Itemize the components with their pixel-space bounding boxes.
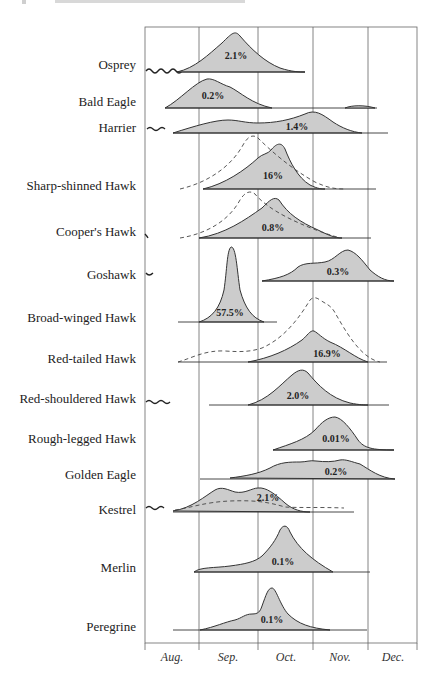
series-sharp-shinned-hawk <box>180 136 376 189</box>
species-label: Broad-winged Hawk <box>27 310 136 325</box>
month-label-dec: Dec. <box>381 650 404 664</box>
series-harrier <box>147 112 388 133</box>
wavy-early-marker-icon <box>146 507 164 510</box>
species-label: Harrier <box>98 120 136 135</box>
percent-label: 0.1% <box>272 556 295 567</box>
month-label-aug: Aug. <box>160 650 183 664</box>
percent-label: 2.1% <box>225 50 248 61</box>
percent-label: 0.2% <box>202 90 225 101</box>
species-label: Red-shouldered Hawk <box>19 391 136 406</box>
percent-label: 16% <box>263 170 283 181</box>
wavy-early-marker-icon <box>147 128 165 131</box>
series-red-shouldered-hawk <box>146 370 389 405</box>
series-kestrel <box>146 488 354 512</box>
migration-chart: Osprey Bald Eagle Harrier Sharp-shinned … <box>0 0 440 677</box>
wavy-early-marker-icon <box>145 234 148 238</box>
month-label-oct: Oct. <box>276 650 296 664</box>
percent-label: 2.0% <box>287 390 310 401</box>
percent-label: 0.3% <box>327 266 350 277</box>
series-golden-eagle <box>200 460 395 479</box>
series-bald-eagle <box>165 79 377 108</box>
percent-label: 0.1% <box>261 614 284 625</box>
species-label: Sharp-shinned Hawk <box>27 178 137 193</box>
percent-label: 0.01% <box>322 433 350 444</box>
month-label-nov: Nov. <box>328 650 350 664</box>
species-label: Osprey <box>98 57 136 72</box>
species-label: Merlin <box>101 560 137 575</box>
series-red-tailed-hawk <box>178 298 387 362</box>
month-label-sep: Sep. <box>218 650 238 664</box>
wavy-early-marker-icon <box>146 401 170 404</box>
percent-label: 1.4% <box>286 121 309 132</box>
species-label: Goshawk <box>87 267 137 282</box>
species-label: Golden Eagle <box>65 467 136 482</box>
percent-label: 0.8% <box>262 222 285 233</box>
series-goshawk <box>146 250 394 281</box>
species-label: Red-tailed Hawk <box>48 351 137 366</box>
species-label: Cooper's Hawk <box>56 224 136 239</box>
percent-label: 2.1% <box>257 492 280 503</box>
species-label: Rough-legged Hawk <box>28 431 136 446</box>
percent-label: 57.5% <box>216 307 244 318</box>
percent-label: 0.2% <box>325 466 348 477</box>
wavy-early-marker-icon <box>146 273 153 275</box>
species-label: Kestrel <box>98 502 136 517</box>
species-label: Bald Eagle <box>79 94 137 109</box>
species-label: Peregrine <box>86 619 136 634</box>
wavy-early-marker-icon <box>146 69 182 73</box>
percent-label: 16.9% <box>313 348 341 359</box>
